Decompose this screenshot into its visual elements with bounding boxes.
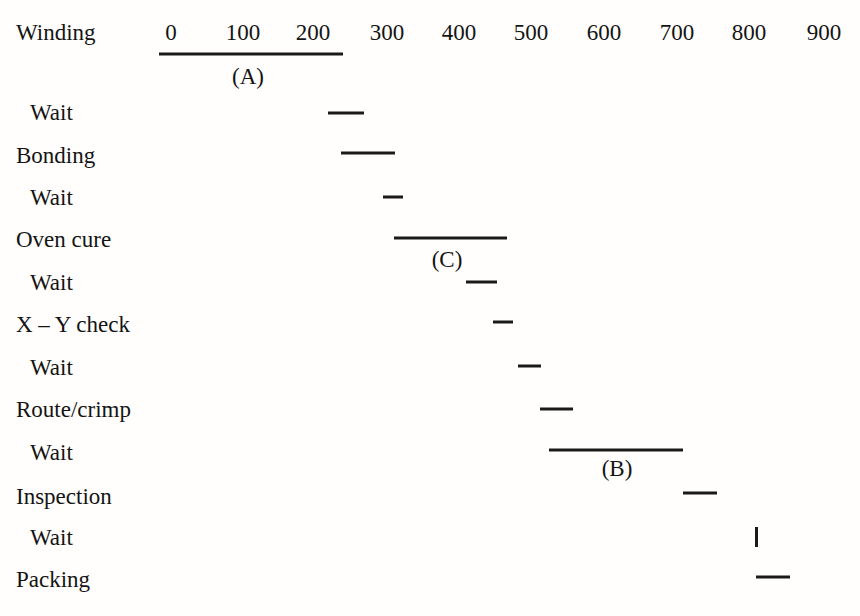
gantt-bar-6 <box>493 321 513 324</box>
gantt-bar-8 <box>540 408 573 411</box>
x-tick-label-300: 300 <box>370 21 405 44</box>
x-tick-label-900: 900 <box>807 21 842 44</box>
task-label-11: Wait <box>30 526 73 549</box>
x-tick-label-100: 100 <box>226 21 261 44</box>
gantt-bar-4 <box>394 237 507 240</box>
gantt-bar-3 <box>383 196 403 199</box>
task-label-3: Wait <box>30 186 73 209</box>
task-label-6: X – Y check <box>16 313 130 336</box>
x-axis-line <box>159 53 343 56</box>
x-tick-label-800: 800 <box>732 21 767 44</box>
task-label-8: Route/crimp <box>16 398 131 421</box>
annotation-a: (A) <box>232 65 264 88</box>
task-label-0: Winding <box>16 21 96 44</box>
x-tick-label-200: 200 <box>296 21 331 44</box>
task-label-9: Wait <box>30 441 73 464</box>
gantt-bar-5 <box>466 281 497 284</box>
annotation-c: (C) <box>432 248 463 271</box>
annotation-b: (B) <box>602 457 633 480</box>
x-tick-label-400: 400 <box>442 21 477 44</box>
task-label-1: Wait <box>30 101 73 124</box>
gantt-bar-11 <box>755 527 758 547</box>
task-label-2: Bonding <box>16 144 95 167</box>
x-tick-label-0: 0 <box>165 21 177 44</box>
task-label-12: Packing <box>16 568 90 591</box>
x-tick-label-700: 700 <box>660 21 695 44</box>
gantt-bar-9 <box>549 449 683 452</box>
gantt-bar-2 <box>341 152 395 155</box>
task-label-10: Inspection <box>16 485 112 508</box>
task-label-4: Oven cure <box>16 228 111 251</box>
gantt-bar-7 <box>518 365 541 368</box>
gantt-bar-10 <box>683 492 717 495</box>
task-label-7: Wait <box>30 356 73 379</box>
x-tick-label-600: 600 <box>587 21 622 44</box>
gantt-chart-figure: 0100200300400500600700800900 WindingWait… <box>0 0 860 616</box>
task-label-5: Wait <box>30 271 73 294</box>
x-tick-label-500: 500 <box>514 21 549 44</box>
gantt-bar-1 <box>328 112 364 115</box>
gantt-bar-12 <box>756 576 790 579</box>
